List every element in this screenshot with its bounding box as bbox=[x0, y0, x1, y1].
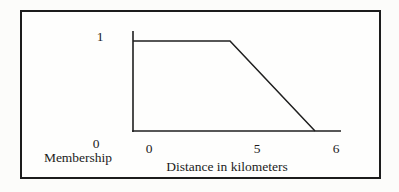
y-axis-min-label: 0 bbox=[93, 137, 100, 151]
x-tick-5: 5 bbox=[254, 142, 261, 156]
membership-curve bbox=[133, 41, 315, 131]
y-axis-max-label: 1 bbox=[97, 30, 104, 44]
x-tick-0: 0 bbox=[146, 142, 153, 156]
y-axis-title: Membership bbox=[44, 151, 112, 165]
x-tick-6: 6 bbox=[333, 142, 340, 156]
x-axis-title: Distance in kilometers bbox=[166, 160, 287, 174]
